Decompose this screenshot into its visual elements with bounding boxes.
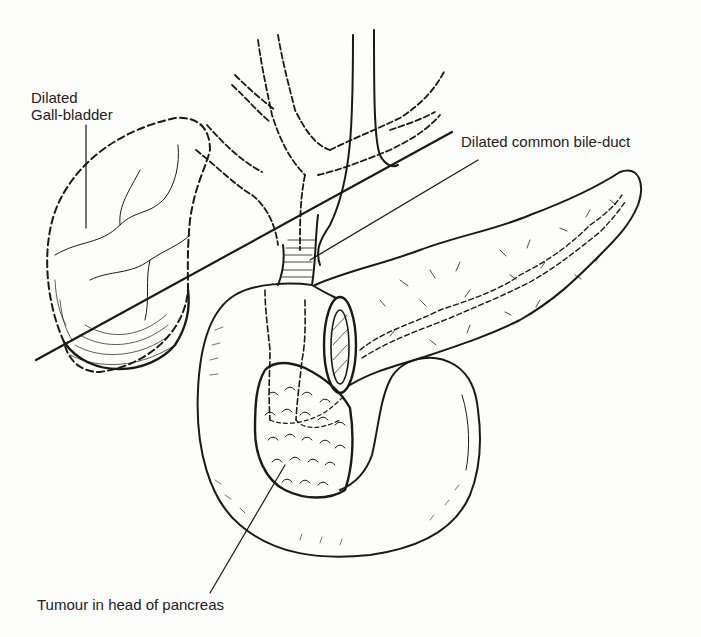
hepatic-ducts — [196, 35, 445, 250]
gall-bladder-label: Dilated Gall-bladder — [31, 89, 113, 123]
duodenal-lumen — [324, 297, 356, 393]
anatomical-illustration: Dilated Gall-bladder Dilated common bile… — [0, 0, 701, 637]
pancreas — [315, 171, 641, 385]
common-bile-duct — [278, 160, 478, 285]
gall-bladder-label-line2: Gall-bladder — [31, 106, 113, 123]
tumour — [210, 363, 352, 593]
incision-line — [36, 132, 452, 360]
gall-bladder-label-line1: Dilated — [31, 89, 113, 106]
common-bile-duct-label: Dilated common bile-duct — [461, 133, 630, 150]
gall-bladder — [47, 118, 210, 372]
vessels — [318, 30, 398, 265]
tumour-label: Tumour in head of pancreas — [37, 596, 224, 613]
